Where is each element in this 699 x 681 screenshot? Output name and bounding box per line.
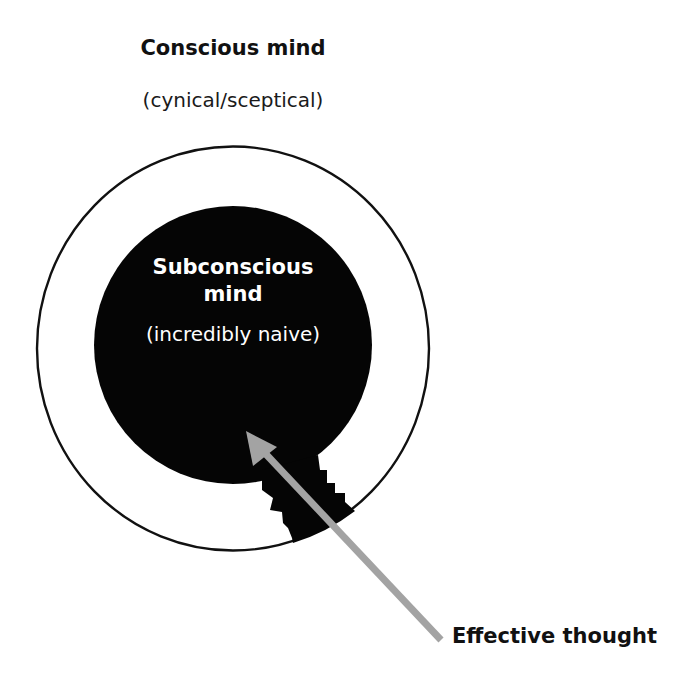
conscious-mind-title: Conscious mind [128, 36, 338, 60]
diagram-graphic [0, 0, 699, 681]
subconscious-mind-subtitle: (incredibly naive) [128, 322, 338, 346]
effective-thought-label: Effective thought [452, 624, 657, 648]
subconscious-title-line2: mind [133, 281, 333, 308]
conscious-subconscious-diagram: Conscious mind (cynical/sceptical) Subco… [0, 0, 699, 681]
subconscious-mind-title: Subconscious mind [133, 254, 333, 308]
conscious-mind-subtitle: (cynical/sceptical) [128, 88, 338, 112]
subconscious-title-line1: Subconscious [133, 254, 333, 281]
